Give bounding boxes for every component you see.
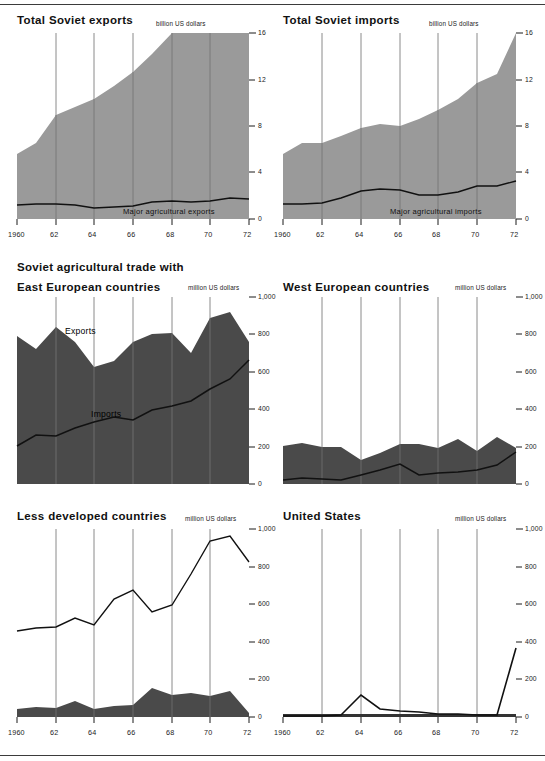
panel-total-soviet-exports: Total Soviet exports billion US dollars xyxy=(0,8,272,256)
series-label-major-agricultural-exports: Major agricultural exports xyxy=(123,207,215,216)
gridlines xyxy=(322,529,477,717)
ytick-6-0: 1,000 xyxy=(525,525,543,532)
y-axis-ticks xyxy=(249,33,256,219)
ytick-2-2: 8 xyxy=(525,122,529,129)
ytick-1-0: 16 xyxy=(258,29,266,36)
ytick-6-1: 800 xyxy=(525,563,537,570)
ytick-6-4: 200 xyxy=(525,675,537,682)
xtick-6-4: 68 xyxy=(432,728,440,737)
xtick-5-2: 64 xyxy=(88,728,96,737)
xtick-6-6: 72 xyxy=(510,728,518,737)
xtick-1-2: 64 xyxy=(88,230,96,239)
xtick-6-3: 66 xyxy=(394,728,402,737)
ytick-4-1: 800 xyxy=(525,330,537,337)
xtick-2-2: 64 xyxy=(355,230,363,239)
ytick-5-1: 800 xyxy=(258,563,270,570)
y-axis-ticks xyxy=(516,529,523,717)
series-label-exports-east-europe: Exports xyxy=(65,326,96,336)
figure-page: Total Soviet exports billion US dollars xyxy=(0,0,545,761)
ytick-3-4: 200 xyxy=(258,443,270,450)
plot-united-states xyxy=(272,505,545,755)
ytick-2-3: 4 xyxy=(525,168,529,175)
y-axis-ticks xyxy=(249,297,256,484)
xtick-5-4: 68 xyxy=(166,728,174,737)
xtick-1-6: 72 xyxy=(243,230,251,239)
ytick-4-2: 600 xyxy=(525,368,537,375)
y-axis-ticks xyxy=(516,297,523,484)
panel-less-developed-countries: Less developed countries million US doll… xyxy=(0,505,272,755)
plot-west-european-countries xyxy=(272,278,545,500)
panel-total-soviet-imports: Total Soviet imports billion US dollars xyxy=(272,8,545,256)
line-united-states-trade xyxy=(283,648,516,716)
xtick-5-6: 72 xyxy=(243,728,251,737)
y-axis-ticks xyxy=(249,529,256,717)
xtick-2-4: 68 xyxy=(432,230,440,239)
panel-east-european-countries: East European countries million US dolla… xyxy=(0,278,272,500)
xtick-2-5: 70 xyxy=(471,230,479,239)
ytick-3-3: 400 xyxy=(258,405,270,412)
ytick-6-2: 600 xyxy=(525,600,537,607)
ytick-3-2: 600 xyxy=(258,368,270,375)
ytick-5-3: 400 xyxy=(258,638,270,645)
xtick-1-4: 68 xyxy=(166,230,174,239)
xtick-2-1: 62 xyxy=(316,230,324,239)
area-exports-west-europe xyxy=(283,437,516,484)
plot-less-developed-countries xyxy=(0,505,272,755)
ytick-1-4: 0 xyxy=(258,215,262,222)
ytick-4-5: 0 xyxy=(525,480,529,487)
xtick-2-0: 1960 xyxy=(274,230,291,239)
plot-total-soviet-exports xyxy=(0,8,272,256)
xtick-1-1: 62 xyxy=(50,230,58,239)
plot-east-european-countries xyxy=(0,278,272,500)
panel-united-states: United States million US dollars xyxy=(272,505,545,755)
x-axis-ticks xyxy=(17,219,249,225)
xtick-5-3: 66 xyxy=(127,728,135,737)
xtick-6-5: 70 xyxy=(471,728,479,737)
ytick-3-1: 800 xyxy=(258,330,270,337)
ytick-4-4: 200 xyxy=(525,443,537,450)
ytick-1-3: 4 xyxy=(258,168,262,175)
ytick-4-3: 400 xyxy=(525,405,537,412)
xtick-2-3: 66 xyxy=(394,230,402,239)
ytick-2-4: 0 xyxy=(525,215,529,222)
x-axis-ticks xyxy=(17,717,249,723)
ytick-4-0: 1,000 xyxy=(525,293,543,300)
series-label-imports-east-europe: Imports xyxy=(91,409,121,419)
xtick-1-3: 66 xyxy=(127,230,135,239)
ytick-1-1: 12 xyxy=(258,76,266,83)
ytick-6-5: 0 xyxy=(525,713,529,720)
ytick-2-0: 16 xyxy=(525,29,533,36)
ytick-5-5: 0 xyxy=(258,713,262,720)
xtick-5-5: 70 xyxy=(204,728,212,737)
xtick-5-1: 62 xyxy=(50,728,58,737)
x-axis-ticks xyxy=(283,717,516,723)
ytick-2-1: 12 xyxy=(525,76,533,83)
xtick-5-0: 1960 xyxy=(8,728,25,737)
bottom-divider-rule xyxy=(0,755,545,756)
x-axis-ticks xyxy=(283,219,516,225)
xtick-6-1: 62 xyxy=(316,728,324,737)
y-axis-ticks xyxy=(516,33,523,219)
panel-west-european-countries: West European countries million US dolla… xyxy=(272,278,545,500)
series-label-major-agricultural-imports: Major agricultural imports xyxy=(390,207,482,216)
xtick-1-5: 70 xyxy=(204,230,212,239)
ytick-5-2: 600 xyxy=(258,600,270,607)
plot-total-soviet-imports xyxy=(272,8,545,256)
gridlines xyxy=(56,529,210,717)
top-divider-rule xyxy=(0,4,545,5)
ytick-3-5: 0 xyxy=(258,480,262,487)
section-heading: Soviet agricultural trade with xyxy=(17,261,184,273)
ytick-5-4: 200 xyxy=(258,675,270,682)
xtick-6-0: 1960 xyxy=(274,728,291,737)
ytick-6-3: 400 xyxy=(525,638,537,645)
xtick-2-6: 72 xyxy=(510,230,518,239)
ytick-1-2: 8 xyxy=(258,122,262,129)
xtick-6-2: 64 xyxy=(355,728,363,737)
xtick-1-0: 1960 xyxy=(8,230,25,239)
area-total-imports xyxy=(283,33,516,219)
